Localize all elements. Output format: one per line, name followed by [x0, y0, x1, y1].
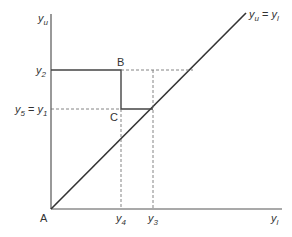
diagonal-line [51, 13, 246, 209]
step-path [51, 70, 153, 109]
diagonal-line-label: yu = yl [248, 8, 279, 23]
y-axis-label: yu [37, 12, 49, 27]
point-b-label: B [117, 56, 124, 68]
tick-y4: y4 [115, 212, 127, 227]
origin-label: A [40, 212, 48, 224]
diagram-canvas: yu yl A y2 y5 = y1 y4 y3 B C yu = yl [0, 0, 292, 237]
point-c-label: C [110, 111, 118, 123]
tick-y5-equals-y1: y5 = y1 [14, 103, 47, 118]
tick-y3: y3 [147, 212, 159, 227]
tick-y2: y2 [35, 64, 47, 79]
x-axis-label: yl [270, 212, 279, 227]
